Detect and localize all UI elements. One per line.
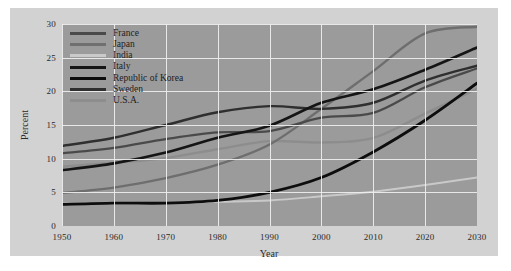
legend-label: U.S.A. [113, 96, 139, 106]
legend-label: Republic of Korea [113, 74, 183, 84]
gridline-vertical [373, 24, 374, 226]
legend-item: Republic of Korea [70, 73, 183, 84]
legend-item: Italy [70, 62, 183, 73]
x-tick-label: 1970 [156, 232, 175, 242]
legend-swatch-icon [70, 43, 106, 46]
legend-item: Sweden [70, 84, 183, 95]
legend-swatch-icon [70, 77, 106, 80]
chart-screenshot: 051015202530 Percent 1950196019701980199… [0, 0, 511, 271]
legend-item: Japan [70, 39, 183, 50]
legend-label: Japan [113, 40, 135, 50]
y-tick-label: 25 [47, 53, 56, 63]
y-tick-label: 5 [51, 187, 56, 197]
y-tick-label: 10 [47, 154, 56, 164]
y-tick-label: 15 [47, 120, 56, 130]
legend-item: India [70, 50, 183, 61]
y-axis-label: Percent [19, 110, 30, 140]
y-tick-label: 0 [51, 221, 56, 231]
legend-swatch-icon [70, 54, 106, 57]
x-tick-label: 2000 [312, 232, 331, 242]
chart-legend: FranceJapanIndiaItalyRepublic of KoreaSw… [70, 28, 183, 106]
legend-swatch-icon [70, 66, 106, 69]
legend-item: France [70, 28, 183, 39]
legend-label: France [113, 29, 139, 39]
legend-swatch-icon [70, 88, 106, 91]
legend-label: India [113, 51, 133, 61]
gridline-vertical [270, 24, 271, 226]
x-tick-label: 1950 [53, 232, 72, 242]
x-tick-label: 2030 [468, 232, 487, 242]
y-tick-label: 20 [47, 86, 56, 96]
gridline-vertical [62, 24, 63, 226]
legend-swatch-icon [70, 99, 106, 102]
x-axis-label: Year [260, 248, 278, 259]
legend-item: U.S.A. [70, 95, 183, 106]
x-tick-label: 1990 [260, 232, 279, 242]
gridline-vertical [218, 24, 219, 226]
y-tick-label: 30 [47, 19, 56, 29]
legend-label: Italy [113, 62, 130, 72]
x-tick-label: 1960 [104, 232, 123, 242]
legend-swatch-icon [70, 32, 106, 35]
chart-card: 051015202530 Percent 1950196019701980199… [10, 8, 498, 256]
x-tick-label: 2010 [364, 232, 383, 242]
x-tick-label: 2020 [416, 232, 435, 242]
legend-label: Sweden [113, 85, 143, 95]
gridline-vertical [321, 24, 322, 226]
gridline-vertical [425, 24, 426, 226]
x-tick-label: 1980 [208, 232, 227, 242]
